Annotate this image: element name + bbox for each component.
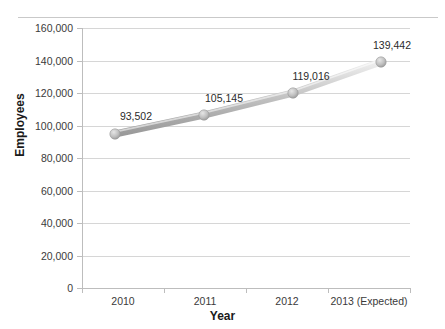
data-label: 119,016 [292,70,329,82]
y-tick-label: 0 [67,282,73,294]
data-label: 139,442 [373,39,411,51]
gridline [82,158,410,159]
y-axis-line [82,28,83,289]
y-axis-tick [77,158,82,159]
y-axis-tick [77,191,82,192]
gridline [82,61,410,62]
y-axis-title: Employees [13,65,27,185]
x-tick-label: 2010 [111,295,134,307]
y-tick-label: 40,000 [41,217,73,229]
y-axis-tick [77,28,82,29]
x-axis-tick [328,288,329,293]
y-tick-label: 20,000 [41,250,73,262]
y-tick-label: 120,000 [35,87,73,99]
x-tick-label: 2013 (Expected) [330,295,407,307]
data-label: 105,145 [205,92,243,104]
x-axis-title: Year [0,309,445,323]
x-axis-tick [164,288,165,293]
x-axis-tick [82,288,83,293]
x-tick-label: 2012 [275,295,298,307]
gridline [82,28,410,29]
chart-top-border [18,17,438,18]
gridline [82,126,410,127]
y-tick-label: 60,000 [41,185,73,197]
chart-container: 160,000 140,000 120,000 100,000 80,000 6… [0,0,445,329]
y-axis-tick [77,223,82,224]
plot-area [82,28,410,288]
y-axis-tick [77,93,82,94]
y-tick-label: 80,000 [41,152,73,164]
y-tick-label: 100,000 [35,120,73,132]
y-tick-label: 140,000 [35,55,73,67]
x-tick-label: 2011 [194,295,217,307]
x-axis-tick [410,288,411,293]
y-axis-tick-labels: 160,000 140,000 120,000 100,000 80,000 6… [0,0,73,329]
gridline [82,223,410,224]
gridline [82,93,410,94]
gridline [82,191,410,192]
y-axis-tick [77,126,82,127]
data-label: 93,502 [120,110,152,122]
y-axis-tick [77,61,82,62]
y-tick-label: 160,000 [35,22,73,34]
y-axis-tick [77,256,82,257]
x-axis-tick [246,288,247,293]
gridline [82,256,410,257]
